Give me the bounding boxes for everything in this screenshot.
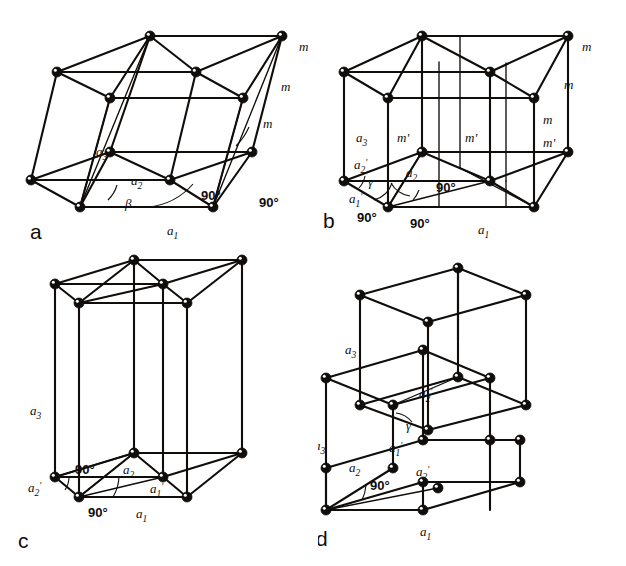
label-b-angle3: 90° <box>410 216 430 231</box>
label-c-angle1: 90° <box>75 462 95 477</box>
label-a-angle1: 90° <box>201 188 221 203</box>
label-b-mp3: m' <box>543 135 555 150</box>
panel-b: m m m m' m' m' a3 a2' a2 <box>318 0 626 260</box>
label-b-mp2: m' <box>465 130 477 145</box>
label-c-a2p: a2' <box>28 480 42 498</box>
label-a-m3: m <box>263 116 272 131</box>
panel-c: a3 a2' a2 a1' a1 90° 90° c <box>10 250 320 566</box>
panel-a-edges <box>31 36 282 207</box>
label-b-angle1: 90° <box>436 180 456 195</box>
label-c-a3: a3 <box>30 403 42 421</box>
label-a-a3: a3 <box>96 144 108 162</box>
label-b-mp1: m' <box>397 130 409 145</box>
label-d-a1: a1 <box>420 524 431 542</box>
crystal-lattice-figure: m m m a3 a2 β a1 90° 90° a <box>0 0 626 566</box>
panel-a-labels: m m m a3 a2 β a1 90° 90° a <box>30 39 308 243</box>
label-b-m1: m <box>582 39 591 54</box>
label-b-angle2: 90° <box>357 210 377 225</box>
panel-d-letter: d <box>318 527 328 550</box>
label-d-a2p-bot: a2' <box>416 464 430 482</box>
label-a-beta: β <box>124 196 132 211</box>
panel-a-angle-arcs <box>108 127 249 207</box>
panel-a-letter: a <box>30 220 42 243</box>
panel-c-letter: c <box>18 529 29 552</box>
panel-d-labels: a3 a3 a2' γ a1' a2 a2' a1 90° <box>318 342 433 550</box>
label-a-a2: a2 <box>131 173 143 191</box>
label-b-a1p: a1' <box>349 191 363 209</box>
label-b-gamma: γ <box>368 174 374 189</box>
label-a-a1: a1 <box>167 223 178 241</box>
label-a-m1: m <box>299 39 308 54</box>
label-c-a1: a1 <box>136 506 147 524</box>
label-b-a1: a1 <box>478 222 489 240</box>
label-d-a1p: a1' <box>389 440 403 458</box>
label-b-m3: m <box>543 112 552 127</box>
label-c-angle2: 90° <box>88 505 108 520</box>
panel-b-letter: b <box>323 209 335 232</box>
label-d-a3-top: a3 <box>345 342 357 360</box>
panel-d: a3 a3 a2' γ a1' a2 a2' a1 90° <box>318 250 626 566</box>
panel-b-labels: m m m m' m' m' a3 a2' a2 <box>323 39 591 240</box>
label-a-m2: m <box>281 79 290 94</box>
label-b-m2: m <box>564 77 573 92</box>
label-d-a2p-top: a2' <box>419 386 433 404</box>
panel-b-edges <box>344 36 568 207</box>
label-d-a2: a2 <box>349 460 361 478</box>
panel-a: m m m a3 a2 β a1 90° 90° a <box>0 0 320 260</box>
label-d-gamma: γ <box>406 418 412 433</box>
label-d-a3-left: a3 <box>318 438 326 456</box>
label-a-angle2: 90° <box>259 195 279 210</box>
label-d-angle1: 90° <box>370 478 390 493</box>
label-b-a3: a3 <box>356 130 368 148</box>
